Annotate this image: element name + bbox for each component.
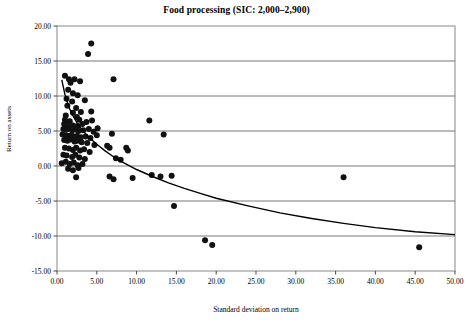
x-tick-label: 20.00 [208, 277, 225, 286]
x-tick-label: 25.00 [248, 277, 265, 286]
scatter-point [77, 78, 83, 84]
scatter-point [107, 145, 113, 151]
x-tick-label: 5.00 [90, 277, 103, 286]
scatter-point [416, 244, 422, 250]
scatter-point [109, 131, 115, 137]
scatter-plot-canvas: 0.005.0010.0015.0020.0025.0030.0035.0040… [0, 0, 473, 329]
scatter-point [89, 118, 95, 124]
scatter-point [88, 41, 94, 47]
y-tick-label: 10.00 [34, 92, 51, 101]
plot-area-border [57, 26, 455, 271]
scatter-point [111, 76, 117, 82]
scatter-point [84, 140, 90, 146]
scatter-point [125, 148, 131, 154]
scatter-point [75, 92, 81, 98]
x-tick-label: 40.00 [367, 277, 384, 286]
scatter-point [76, 155, 82, 161]
scatter-point [209, 242, 215, 248]
y-tick-label: -10.00 [32, 232, 52, 241]
y-axis-title: Return on assets [5, 89, 13, 169]
x-tick-label: 35.00 [327, 277, 344, 286]
scatter-point [171, 203, 177, 209]
scatter-point [202, 237, 208, 243]
scatter-point [81, 146, 87, 152]
x-axis-tick-labels: 0.005.0010.0015.0020.0025.0030.0035.0040… [50, 277, 463, 286]
scatter-point [88, 108, 94, 114]
x-tick-label: 50.00 [447, 277, 464, 286]
scatter-point [87, 149, 93, 155]
scatter-point [65, 87, 71, 93]
x-tick-label: 15.00 [168, 277, 185, 286]
y-tick-label: 0.00 [38, 162, 51, 171]
scatter-point [341, 174, 347, 180]
scatter-point [111, 176, 117, 182]
scatter-point [94, 132, 100, 138]
scatter-point [64, 153, 70, 159]
scatter-point [73, 105, 79, 111]
scatter-point [146, 118, 152, 124]
y-tick-label: 15.00 [34, 57, 51, 66]
scatter-point [70, 167, 76, 173]
scatter-point [161, 132, 167, 138]
x-axis-title: Standard deviation on return [56, 305, 456, 314]
y-tick-label: 5.00 [38, 127, 51, 136]
x-tick-label: 30.00 [287, 277, 304, 286]
scatter-point [85, 51, 91, 57]
y-axis-ticks [54, 26, 58, 271]
scatter-point [79, 121, 85, 127]
y-axis-tick-labels: -15.00-10.00-5.000.005.0010.0015.0020.00 [32, 22, 52, 276]
scatter-point [130, 175, 136, 181]
y-tick-label: -5.00 [35, 197, 51, 206]
scatter-point [73, 174, 79, 180]
scatter-point [79, 139, 85, 145]
y-tick-label: -15.00 [32, 267, 52, 276]
x-tick-label: 0.00 [50, 277, 63, 286]
scatter-point [78, 109, 84, 115]
x-tick-label: 45.00 [407, 277, 424, 286]
scatter-point [69, 99, 75, 105]
x-tick-label: 10.00 [128, 277, 145, 286]
scatter-point [169, 173, 175, 179]
scatter-point [72, 76, 78, 82]
chart-figure: Food processing (SIC: 2,000–2,900) 0.005… [0, 0, 473, 329]
y-tick-label: 20.00 [34, 22, 51, 31]
scatter-point [82, 97, 88, 103]
scatter-point [75, 165, 81, 171]
x-axis-ticks [57, 271, 455, 275]
